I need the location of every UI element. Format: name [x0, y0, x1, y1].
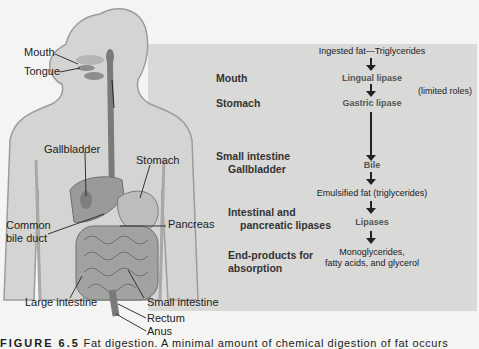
label-gallbladder: Gallbladder: [44, 144, 100, 155]
stage-gallbladder: Gallbladder: [216, 163, 290, 176]
stage-mouth: Mouth: [216, 72, 248, 85]
label-pancreas: Pancreas: [168, 219, 214, 230]
label-small-intestine: Small intestine: [147, 297, 219, 308]
flow-limited-roles: (limited roles): [412, 86, 478, 97]
flow-ingested-fat: Ingested fat—Triglycerides: [316, 46, 428, 57]
flow-bile: Bile: [316, 160, 428, 171]
arrow-down-icon: [370, 201, 372, 209]
label-tongue: Tongue: [24, 66, 60, 77]
label-mouth: Mouth: [24, 47, 55, 58]
flow-lipases: Lipases: [316, 217, 428, 228]
arrow-down-icon: [370, 58, 372, 66]
arrow-down-icon: [370, 112, 372, 156]
arrow-down-icon: [370, 231, 372, 239]
stage-stomach: Stomach: [216, 97, 260, 110]
stage-small-intestine-gallbladder: Small intestine Gallbladder: [216, 150, 290, 176]
flow-end-products-line2: fatty acids, and glycerol: [316, 258, 428, 269]
arrow-down-icon: [370, 172, 372, 180]
label-stomach: Stomach: [136, 155, 179, 166]
flow-lingual-lipase: Lingual lipase: [316, 73, 428, 84]
figure-caption-label: FIGURE 6.5: [0, 337, 80, 349]
flow-end-products: Monoglycerides, fatty acids, and glycero…: [316, 247, 428, 269]
label-rectum: Rectum: [147, 313, 185, 324]
stage-end-products-line1: End-products for: [228, 249, 313, 262]
label-anus: Anus: [147, 326, 172, 337]
label-common-bile-duct-line2: bile duct: [6, 232, 51, 245]
flow-emulsified-fat: Emulsified fat (triglycerides): [306, 188, 438, 199]
flow-end-products-line1: Monoglycerides,: [316, 247, 428, 258]
figure-caption: FIGURE 6.5 Fat digestion. A minimal amou…: [0, 337, 448, 349]
arrow-down-icon: [370, 84, 372, 92]
stage-end-products-line2: absorption: [228, 262, 313, 275]
label-large-intestine: Large intestine: [25, 297, 97, 308]
stage-end-products: End-products for absorption: [228, 249, 313, 275]
stage-small-intestine: Small intestine: [216, 150, 290, 163]
flow-gastric-lipase: Gastric lipase: [316, 98, 428, 109]
label-common-bile-duct: Common bile duct: [6, 219, 51, 245]
label-common-bile-duct-line1: Common: [6, 219, 51, 232]
figure-caption-text: Fat digestion. A minimal amount of chemi…: [84, 337, 449, 349]
